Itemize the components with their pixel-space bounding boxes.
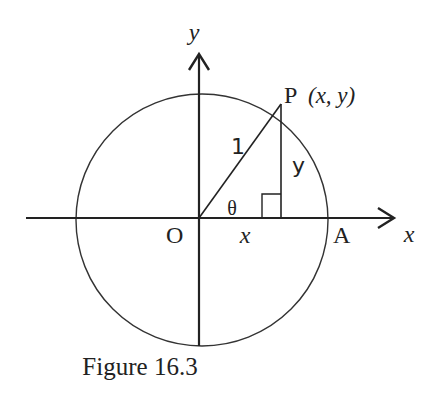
right-angle-marker — [262, 194, 281, 218]
horizontal-segment-label: x — [239, 222, 251, 248]
point-p-coords: (x, y) — [308, 83, 355, 108]
unit-circle-diagram: y x P (x, y) O A 1 y x θ Figure 16.3 — [0, 0, 432, 398]
origin-label: O — [166, 222, 183, 248]
vertical-segment-label: y — [292, 153, 305, 178]
point-a-label: A — [333, 222, 351, 248]
radius-op — [199, 104, 281, 218]
x-axis-label: x — [403, 221, 415, 247]
point-p-label: P — [284, 82, 297, 108]
y-axis-label: y — [187, 19, 200, 45]
angle-theta-label: θ — [227, 197, 237, 219]
radius-label: 1 — [231, 134, 245, 159]
figure-caption: Figure 16.3 — [82, 353, 197, 380]
unit-circle — [76, 94, 328, 346]
